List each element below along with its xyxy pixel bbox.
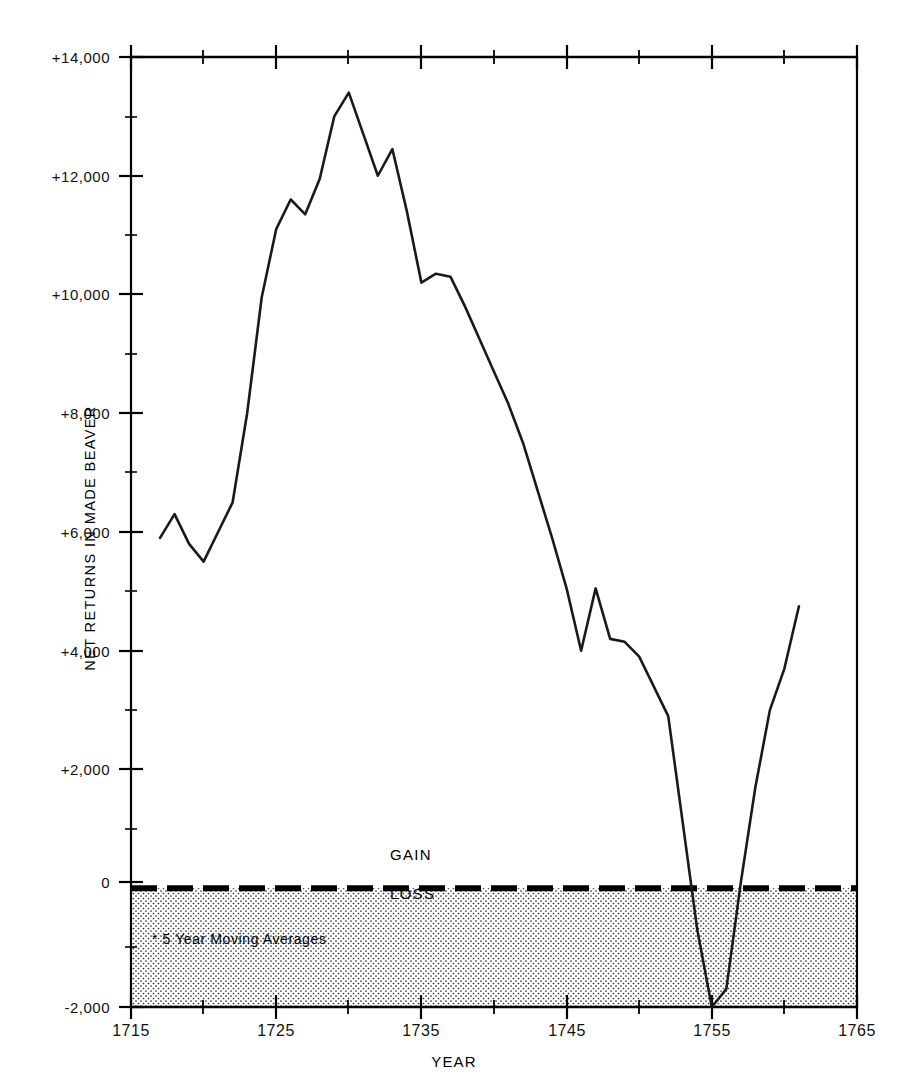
- x-axis-major-ticks: [131, 45, 857, 1019]
- chart-figure: +14,000 +12,000 +10,000 +8,000 +6,000 +4…: [0, 0, 908, 1087]
- chart-plot-area: [0, 0, 908, 1087]
- xtick-label-1715: 1715: [112, 1022, 150, 1040]
- xtick-label-1735: 1735: [402, 1022, 440, 1040]
- xtick-label-1765: 1765: [838, 1022, 876, 1040]
- x-axis-minor-ticks: [203, 50, 784, 1014]
- ytick-label-minus2000: -2,000: [0, 999, 110, 1016]
- loss-shaded-region: [131, 888, 857, 1007]
- loss-annotation: LOSS: [390, 885, 435, 902]
- y-axis-title: NET RETURNS IN MADE BEAVER: [82, 388, 98, 688]
- data-series-line: [160, 93, 799, 1007]
- ytick-label-2000: +2,000: [0, 761, 110, 778]
- xtick-label-1745: 1745: [548, 1022, 586, 1040]
- x-axis-title: YEAR: [0, 1053, 908, 1070]
- ytick-label-0: 0: [0, 874, 110, 891]
- footnote-moving-averages: * 5 Year Moving Averages: [152, 931, 326, 947]
- ytick-label-10000: +10,000: [0, 286, 110, 303]
- xtick-label-1725: 1725: [257, 1022, 295, 1040]
- gain-annotation: GAIN: [390, 846, 432, 863]
- ytick-label-12000: +12,000: [0, 168, 110, 185]
- ytick-label-14000: +14,000: [0, 49, 110, 66]
- xtick-label-1755: 1755: [693, 1022, 731, 1040]
